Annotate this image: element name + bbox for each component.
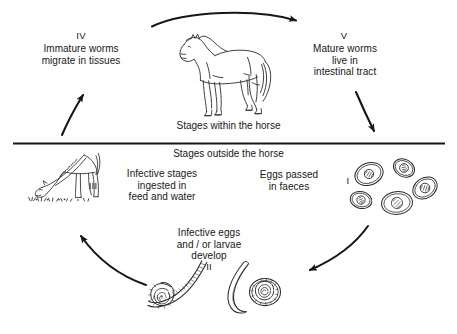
stage-iv-numeral: IV: [62, 30, 100, 41]
larva-right: [228, 261, 249, 313]
standing-horse-illustration: [180, 34, 271, 116]
stages-outside-horse-label: Stages outside the horse: [0, 148, 457, 160]
grazing-horse-illustration: [29, 153, 100, 201]
stage-i-label: Eggs passed in faeces: [243, 169, 335, 192]
stage-iii-label: Infective stages ingested in feed and wa…: [110, 168, 214, 203]
stage-iii-numeral: III: [82, 180, 104, 191]
coiled-larva-in-shell: [250, 278, 281, 305]
arrow-bottom-right: [310, 226, 368, 270]
stage-v-label: Mature worms live in intestinal tract: [293, 43, 397, 78]
stage-i-numeral: I: [340, 175, 356, 186]
arrow-bottom-left: [81, 236, 146, 285]
life-cycle-diagram: IV Immature worms migrate in tissues V M…: [0, 0, 457, 334]
stage-ii-label: Infective eggs and / or larvae develop: [155, 227, 263, 262]
parasite-eggs-cluster-illustration: [348, 155, 441, 216]
arrow-top-arc: [152, 13, 296, 27]
stage-iv-label: Immature worms migrate in tissues: [22, 43, 140, 66]
stage-ii-numeral: II: [198, 261, 220, 272]
stages-within-horse-label: Stages within the horse: [0, 120, 457, 132]
stage-v-numeral: V: [325, 30, 363, 41]
